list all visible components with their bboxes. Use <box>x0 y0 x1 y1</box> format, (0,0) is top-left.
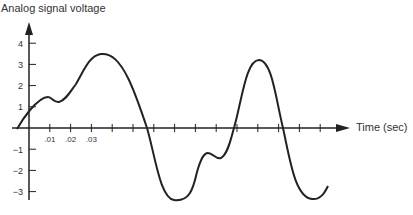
y-tick-label: 3 <box>18 60 23 70</box>
x-ticks: .01.02.03 <box>44 124 320 144</box>
y-tick-label: 4 <box>18 39 23 49</box>
signal-curve <box>17 54 328 200</box>
x-tick-label: .03 <box>86 135 98 144</box>
x-tick-label: .02 <box>65 135 77 144</box>
analog-signal-chart: 4321−1−2−3 .01.02.03 <box>0 0 413 215</box>
x-axis-label: Time (sec) <box>356 121 408 133</box>
y-tick-label: −2 <box>13 166 23 176</box>
y-tick-label: 2 <box>18 81 23 91</box>
y-axis-arrow-icon <box>25 22 33 35</box>
y-tick-label: −1 <box>13 145 23 155</box>
y-tick-label: −3 <box>13 187 23 197</box>
chart-title: Analog signal voltage <box>1 2 106 14</box>
x-axis-arrow-icon <box>336 124 350 132</box>
y-tick-label: 1 <box>18 102 23 112</box>
x-tick-label: .01 <box>44 135 56 144</box>
